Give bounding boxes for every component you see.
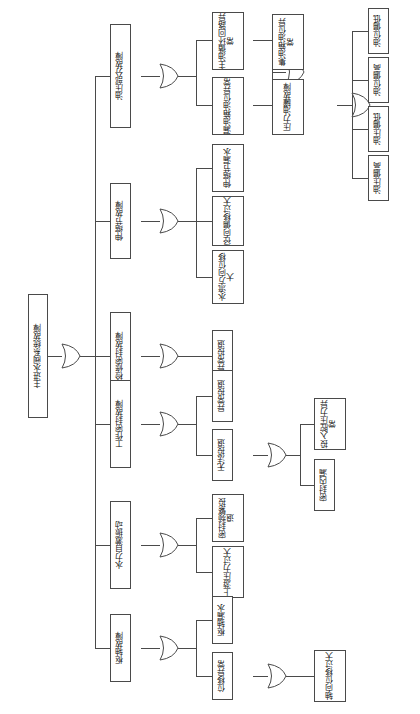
or-gate-maint-seal (158, 342, 180, 370)
or-gate-cannot-retract (266, 441, 288, 469)
node-label: 压力油罐故障 (284, 83, 293, 131)
node-label: 投入腔压力异常 (321, 399, 338, 449)
node-displacement-abnormal[interactable]: 位移异常 (212, 652, 233, 700)
node-label: 异常投退 (218, 340, 227, 372)
node-label: 无法投退 (218, 439, 227, 471)
node-pivot-water-leak[interactable]: 枢轴漏水 (212, 596, 233, 644)
node-label: 密封内漏 (320, 469, 329, 501)
node-oil-level-low[interactable]: 油位偏低 (368, 8, 389, 54)
node-flow-direction-displacement-large[interactable]: 水流方向位移大 (212, 250, 244, 304)
or-gate-oil (158, 62, 180, 90)
node-label: 密封频繁投退 (219, 495, 236, 541)
node-label: 油压偏高 (374, 162, 383, 194)
node-oil-pressure-low[interactable]: 油压偏低 (368, 106, 389, 152)
node-oil-collection-tank-level-abnormal[interactable]: 集油箱油位异常 (272, 14, 304, 70)
or-gate-pivot (158, 634, 180, 662)
node-expansion-joint-water-leak[interactable]: 伸缩节漏水 (212, 144, 244, 192)
node-label: 伸缩节故障 (116, 201, 125, 241)
node-upstream-pressure-excessive[interactable]: 上游压力过大 (212, 546, 244, 598)
node-label: 工作密封故障 (116, 400, 125, 448)
or-gate-work-seal (158, 410, 180, 438)
node-label: 集油箱油位异常 (279, 15, 296, 69)
node-oil-level-high[interactable]: 油位偏高 (368, 57, 389, 103)
node-label: 位移异常 (218, 660, 227, 692)
node-label: 上游压力过大 (224, 548, 233, 596)
node-radial-offset-excessive[interactable]: 径向偏移过大 (212, 196, 244, 246)
or-gate-displacement (266, 662, 288, 690)
node-pressure-oil-tank-failure[interactable]: 压力油罐故障 (272, 79, 304, 135)
node-label: 枢轴漏水 (218, 604, 227, 636)
node-seal-internal-leak[interactable]: 密封内漏 (314, 459, 335, 511)
node-label: 轴向位移过大 (326, 652, 335, 700)
node-label: 漏油箱油位异常 (224, 78, 233, 134)
node-seal-frequent-retraction[interactable]: 密封频繁投退 (212, 494, 244, 542)
node-label: 主进水阀系统故障 (34, 324, 43, 388)
node-label: 油位偏低 (374, 15, 383, 47)
node-working-seal-abnormal-retraction[interactable]: 异常投退 (212, 370, 233, 422)
node-hydraulic-self-excited-vibration[interactable]: 水力自激振动 (110, 501, 131, 589)
node-label: 油压偏低 (374, 113, 383, 145)
node-pivot-failure[interactable]: 枢轴故障 (110, 614, 131, 682)
node-label: 水力自激振动 (116, 521, 125, 569)
node-oil-leakage-tank-level-abnormal[interactable]: 漏油箱油位异常 (212, 77, 244, 135)
fault-tree-diagram: 主进水阀系统故障 油压部分故障 伸缩节故障 检修密封故障 工作密封故障 水力自激… (0, 0, 420, 714)
node-axial-displacement-excessive[interactable]: 轴向位移过大 (314, 650, 346, 702)
node-label: 异常投退 (218, 380, 227, 412)
node-label: 检修密封故障 (116, 332, 125, 380)
node-working-seal-cannot-retract[interactable]: 无法投退 (212, 429, 233, 481)
or-gate-expansion (158, 207, 180, 235)
node-working-seal-failure[interactable]: 工作密封故障 (110, 380, 131, 468)
node-expansion-joint-failure[interactable]: 伸缩节故障 (110, 183, 131, 259)
node-label: 伸缩节漏水 (224, 148, 233, 188)
or-gate-root (60, 342, 82, 370)
or-gate-hydraulic-vibration (158, 531, 180, 559)
node-label: 径向偏移过大 (224, 197, 233, 245)
node-oil-pressure-section-failure[interactable]: 油压部分故障 (110, 24, 131, 128)
node-label: 主油循环回路异常 (219, 13, 236, 69)
node-main-oil-circulation-loop-abnormal[interactable]: 主油循环回路异常 (212, 12, 244, 70)
node-label: 油位偏高 (374, 64, 383, 96)
node-label: 水流方向位移大 (219, 251, 236, 303)
node-root-main-inlet-valve-failure[interactable]: 主进水阀系统故障 (28, 294, 48, 418)
node-injection-chamber-pressure-abnormal[interactable]: 投入腔压力异常 (314, 398, 346, 450)
node-oil-pressure-high[interactable]: 油压偏高 (368, 155, 389, 201)
node-label: 油压部分故障 (116, 52, 125, 100)
node-label: 枢轴故障 (116, 632, 125, 664)
